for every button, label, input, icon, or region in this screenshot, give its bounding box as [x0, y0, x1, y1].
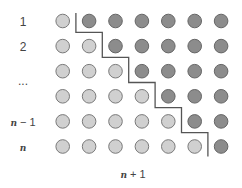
- staircase-divider-line: [76, 13, 208, 157]
- dark-dot-r2-c5: [162, 39, 176, 53]
- dot-staircase-diagram: 12n − 1n ... n + 1: [0, 0, 242, 188]
- dark-dot-r2-c7: [214, 39, 228, 53]
- dark-dot-r5-c7: [214, 115, 228, 129]
- light-dot-r5-c4: [135, 115, 149, 129]
- dark-dot-r4-c5: [162, 90, 176, 104]
- light-dot-r2-c1: [56, 39, 70, 53]
- dark-dot-r5-c6: [188, 115, 202, 129]
- light-dot-r6-c3: [109, 140, 123, 154]
- light-dot-r6-c1: [56, 140, 70, 154]
- column-count-label: n + 1: [120, 168, 145, 180]
- dark-dot-r2-c6: [188, 39, 202, 53]
- dark-dot-r3-c4: [135, 64, 149, 78]
- light-dot-r5-c1: [56, 115, 70, 129]
- dark-dot-r6-c7: [214, 140, 228, 154]
- light-dot-r5-c5: [162, 115, 176, 129]
- row-label-ellipsis: ...: [18, 74, 28, 88]
- light-dot-r5-c3: [109, 115, 123, 129]
- row-label-6: n: [20, 143, 27, 153]
- light-dot-r1-c1: [56, 14, 70, 28]
- light-dot-r2-c2: [82, 39, 96, 53]
- dark-dot-r1-c4: [135, 14, 149, 28]
- dark-dot-r1-c2: [82, 14, 96, 28]
- light-dot-r5-c2: [82, 115, 96, 129]
- row-label-5: n − 1: [10, 116, 35, 128]
- dark-dot-r1-c3: [109, 14, 123, 28]
- row-label-1: 1: [20, 15, 27, 29]
- light-dot-r3-c2: [82, 64, 96, 78]
- light-dot-r4-c1: [56, 90, 70, 104]
- light-dot-r6-c6: [188, 140, 202, 154]
- light-dot-r4-c3: [109, 90, 123, 104]
- dark-dot-r4-c7: [214, 90, 228, 104]
- light-dot-r6-c2: [82, 140, 96, 154]
- dark-dot-r1-c6: [188, 14, 202, 28]
- dark-dot-r1-c5: [162, 14, 176, 28]
- dark-dot-r1-c7: [214, 14, 228, 28]
- dark-dot-r3-c6: [188, 64, 202, 78]
- light-dot-r6-c5: [162, 140, 176, 154]
- dark-dot-r4-c6: [188, 90, 202, 104]
- light-dot-r3-c3: [109, 64, 123, 78]
- light-dot-r6-c4: [135, 140, 149, 154]
- dark-dot-r3-c7: [214, 64, 228, 78]
- row-label-2: 2: [20, 40, 27, 54]
- light-dot-r3-c1: [56, 64, 70, 78]
- light-dot-r4-c4: [135, 90, 149, 104]
- dark-dot-r2-c3: [109, 39, 123, 53]
- light-dot-r4-c2: [82, 90, 96, 104]
- dark-dot-r3-c5: [162, 64, 176, 78]
- dark-dot-r2-c4: [135, 39, 149, 53]
